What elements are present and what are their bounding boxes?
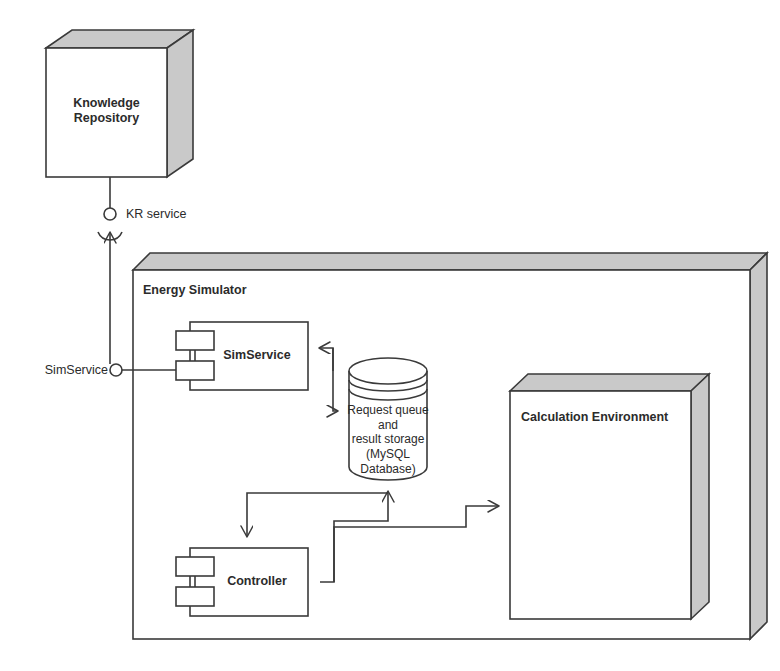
kr-service-connector <box>98 177 122 240</box>
diagram-vector-layer <box>0 0 780 671</box>
diagram-canvas: Knowledge Repository KR service Energy S… <box>0 0 780 671</box>
calculation-environment-node <box>510 374 709 619</box>
controller-component <box>176 548 308 616</box>
simservice-component <box>176 322 308 390</box>
database-cylinder <box>349 358 427 480</box>
knowledge-repository-node <box>46 30 193 177</box>
